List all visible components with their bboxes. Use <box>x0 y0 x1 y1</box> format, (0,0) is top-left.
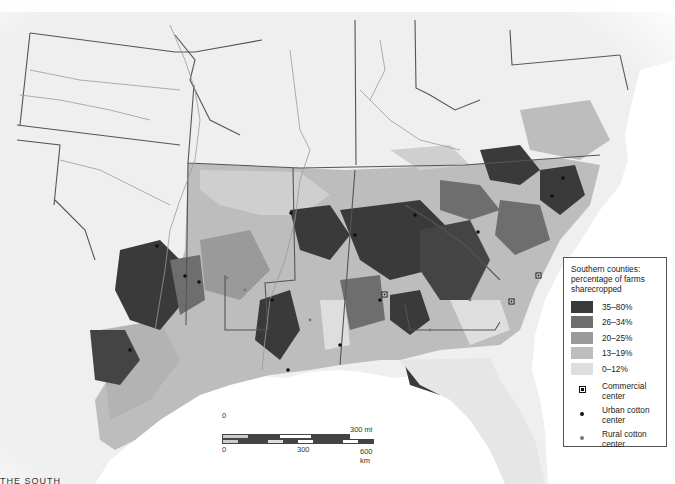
scale-km-start: 0 <box>222 445 226 454</box>
legend-label: Rural cotton center <box>602 429 660 449</box>
rural-cotton-center-icon <box>580 436 584 440</box>
urban-cotton-center-icon <box>580 412 584 416</box>
legend-label: Commercial center <box>602 381 660 401</box>
legend-class-13-19: 13–19% <box>571 346 660 362</box>
scale-km-end: 600 km <box>360 447 380 465</box>
swatch-35-80 <box>571 301 593 313</box>
scale-mi-start: 0 <box>222 411 226 420</box>
legend-label: 0–12% <box>602 364 628 374</box>
map-legend: Southern counties: percentage of farms s… <box>563 257 667 447</box>
legend-class-0-12: 0–12% <box>571 361 660 377</box>
legend-class-20-25: 20–25% <box>571 330 660 346</box>
legend-class-26-34: 26–34% <box>571 315 660 331</box>
footer-cutoff-text: THE SOUTH <box>0 478 110 484</box>
swatch-13-19 <box>571 347 593 359</box>
swatch-0-12 <box>571 363 593 375</box>
legend-label: Urban cotton center <box>602 405 660 425</box>
legend-title: Southern counties: percentage of farms s… <box>571 264 660 294</box>
swatch-20-25 <box>571 332 593 344</box>
legend-label: 20–25% <box>602 333 632 343</box>
commercial-center-icon <box>579 386 586 393</box>
swatch-26-34 <box>571 316 593 328</box>
legend-label: 26–34% <box>602 317 632 327</box>
legend-rural-cotton-center: Rural cotton center <box>571 429 660 449</box>
scale-km-mid: 300 <box>297 445 310 454</box>
legend-label: 35–80% <box>602 302 632 312</box>
scale-km-bar <box>222 439 374 444</box>
legend-urban-cotton-center: Urban cotton center <box>571 405 660 425</box>
legend-class-35-80: 35–80% <box>571 299 660 315</box>
scale-bar: 0 300 mi 0 300 600 km <box>220 411 380 456</box>
legend-commercial-center: Commercial center <box>571 381 660 401</box>
scale-mi-end: 300 mi <box>350 425 373 434</box>
legend-label: 13–19% <box>602 348 632 358</box>
